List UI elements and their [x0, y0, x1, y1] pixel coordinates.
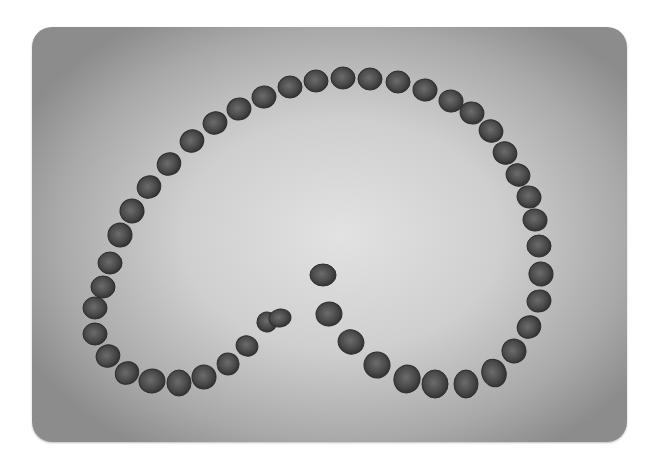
- bean: [525, 287, 554, 314]
- bean: [190, 363, 218, 391]
- bean: [503, 161, 533, 190]
- bean: [106, 221, 134, 249]
- bean: [331, 67, 355, 89]
- bean: [310, 264, 336, 286]
- bean: [278, 76, 302, 98]
- bean: [98, 252, 122, 274]
- bean: [412, 78, 438, 102]
- bean: [225, 95, 254, 122]
- bean: [521, 207, 548, 233]
- bean: [358, 68, 382, 90]
- bean: [200, 109, 230, 138]
- bean: [83, 297, 107, 319]
- bean: [391, 362, 423, 396]
- bean: [335, 326, 368, 357]
- bean: [91, 276, 115, 298]
- bean: [527, 235, 551, 257]
- bean: [233, 333, 261, 359]
- bean-spiral-photo: Grayscale photo of dark beans arranged i…: [32, 27, 627, 442]
- bean: [117, 196, 148, 227]
- bean: [176, 126, 207, 156]
- bean: [314, 300, 344, 328]
- bean: [214, 350, 242, 378]
- bean: [515, 183, 544, 210]
- bean: [137, 367, 167, 395]
- bean: [478, 356, 510, 391]
- bean: [513, 311, 545, 342]
- bean: [422, 370, 448, 398]
- bean: [83, 323, 107, 345]
- bean: [386, 71, 410, 93]
- bean: [133, 171, 165, 202]
- bean: [250, 84, 277, 110]
- beans-illustration: [32, 27, 627, 442]
- bean: [528, 261, 554, 287]
- bean: [304, 70, 328, 92]
- bean: [497, 334, 530, 367]
- bean: [167, 370, 191, 396]
- bean: [360, 348, 395, 383]
- bean: [454, 370, 478, 398]
- bean: [153, 148, 185, 179]
